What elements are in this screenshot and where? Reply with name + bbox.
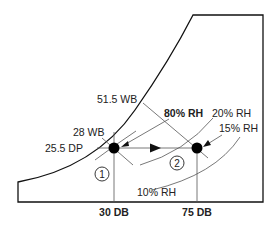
leader-arrow-icon [203,140,211,147]
label-10-rh: 10% RH [137,186,176,198]
state-point-2 [192,143,203,154]
label-20-rh: 20% RH [212,107,251,119]
process-arrow-icon [150,144,161,153]
point-1-number: 1 [99,169,105,180]
label-51-5-wb: 51.5 WB [97,93,137,105]
label-28-wb: 28 WB [73,126,105,138]
state-point-1 [109,143,120,154]
leader-arrow-icon [121,141,129,147]
point-2-number: 2 [174,158,180,169]
psychrometric-diagram: 1 2 51.5 WB 80% RH 20% RH 15% RH 28 WB 2… [0,0,278,230]
label-75-db: 75 DB [182,206,212,218]
label-15-rh: 15% RH [219,122,258,134]
label-80-rh: 80% RH [164,107,203,119]
label-25-5-dp: 25.5 DP [45,142,83,154]
leader-80rh [124,119,169,145]
label-30-db: 30 DB [99,206,129,218]
